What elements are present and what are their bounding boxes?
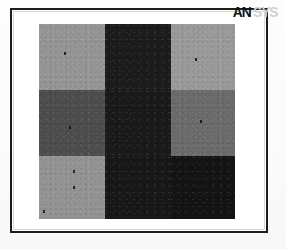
cell-speck [64, 52, 66, 55]
ansys-logo-primary-text: AN [233, 4, 251, 19]
cell-r2c2 [105, 90, 171, 156]
cell-speck [43, 210, 45, 213]
grid-heatmap [39, 24, 235, 219]
cell-speck [69, 126, 71, 129]
cell-r2c3 [171, 90, 235, 156]
ansys-logo: ANSYS [232, 4, 278, 19]
cell-speck [195, 58, 197, 61]
cell-speck [73, 186, 75, 189]
cell-r3c2 [105, 156, 171, 219]
cell-r3c1 [39, 156, 105, 219]
cell-r2c1 [39, 90, 105, 156]
figure-root: ANSYS [0, 0, 286, 249]
cell-speck [73, 170, 75, 173]
cell-r1c2 [105, 24, 171, 90]
figure-frame [10, 8, 268, 233]
cell-r3c3 [171, 156, 235, 219]
cell-speck [200, 120, 202, 123]
ansys-logo-secondary-text: SYS [253, 4, 277, 19]
cell-r1c1 [39, 24, 105, 90]
cell-r1c3 [171, 24, 235, 90]
